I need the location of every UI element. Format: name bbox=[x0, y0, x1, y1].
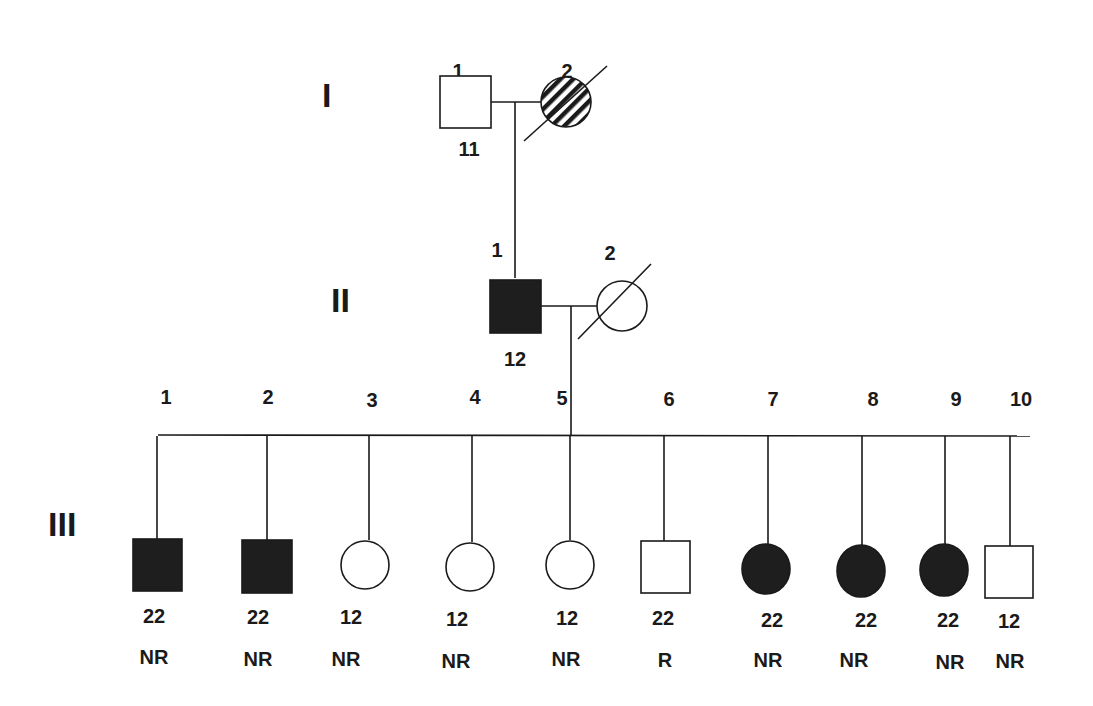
id-III-7: 7 bbox=[767, 388, 778, 410]
male-unaffected-III-10 bbox=[985, 546, 1033, 598]
genotype-II-1: 12 bbox=[504, 348, 526, 370]
response-III-3: NR bbox=[332, 648, 361, 670]
male-affected-II-1 bbox=[490, 280, 541, 333]
response-III-5: NR bbox=[552, 648, 581, 670]
female-unaffected-III-5 bbox=[546, 541, 594, 589]
response-III-6: R bbox=[658, 649, 673, 671]
generation-label-I: I bbox=[322, 76, 331, 114]
female-unaffected-III-4 bbox=[446, 543, 494, 591]
id-III-8: 8 bbox=[867, 388, 878, 410]
female-unaffected-II-2 bbox=[597, 281, 647, 331]
response-III-9: NR bbox=[936, 651, 965, 673]
genotype-III-10: 12 bbox=[998, 610, 1020, 632]
genotype-III-4: 12 bbox=[446, 608, 468, 630]
male-affected-III-2 bbox=[242, 540, 292, 593]
genotype-III-6: 22 bbox=[652, 607, 674, 629]
response-III-10: NR bbox=[996, 650, 1025, 672]
genotype-III-5: 12 bbox=[556, 607, 578, 629]
generation-label-II: II bbox=[331, 281, 350, 319]
id-II-2: 2 bbox=[604, 242, 615, 264]
id-III-6: 6 bbox=[663, 388, 674, 410]
genotype-III-1: 22 bbox=[143, 605, 165, 627]
male-unaffected-I-1 bbox=[440, 76, 491, 128]
sibship-line-III bbox=[158, 435, 1030, 436]
id-III-5: 5 bbox=[556, 387, 567, 409]
female-unaffected-III-3 bbox=[341, 541, 389, 589]
genotype-III-7: 22 bbox=[761, 609, 783, 631]
male-affected-III-1 bbox=[133, 539, 182, 591]
response-III-7: NR bbox=[754, 649, 783, 671]
generation-label-III: III bbox=[48, 505, 76, 543]
genotype-III-8: 22 bbox=[855, 609, 877, 631]
female-affected-III-9 bbox=[920, 544, 968, 596]
pedigree-diagram: I II III 1 2 11 1 2 12 1 22 NR 2 22 NR 3… bbox=[0, 0, 1093, 706]
id-III-4: 4 bbox=[469, 386, 481, 408]
genotype-I-1: 11 bbox=[458, 138, 479, 160]
female-affected-III-8 bbox=[837, 545, 885, 597]
response-III-1: NR bbox=[140, 646, 169, 668]
male-unaffected-III-6 bbox=[641, 541, 690, 593]
id-III-2: 2 bbox=[262, 386, 273, 408]
id-II-1: 1 bbox=[491, 239, 502, 261]
genotype-III-9: 22 bbox=[937, 609, 959, 631]
response-III-8: NR bbox=[840, 649, 869, 671]
id-III-10: 10 bbox=[1010, 388, 1032, 410]
female-affected-III-7 bbox=[742, 544, 790, 594]
id-III-1: 1 bbox=[160, 386, 171, 408]
response-III-2: NR bbox=[244, 648, 273, 670]
genotype-III-3: 12 bbox=[340, 606, 362, 628]
id-III-3: 3 bbox=[366, 389, 377, 411]
genotype-III-2: 22 bbox=[247, 606, 269, 628]
response-III-4: NR bbox=[442, 650, 471, 672]
id-III-9: 9 bbox=[950, 388, 961, 410]
